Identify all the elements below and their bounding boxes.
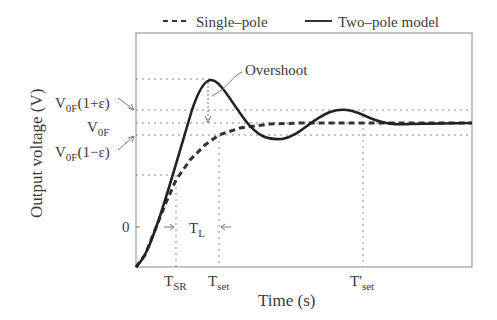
- overshoot-label: Overshoot: [245, 62, 308, 78]
- v0f-upper-label: V0F(1+ε): [55, 95, 110, 114]
- x-tick-tsr: TSR: [164, 273, 187, 292]
- overshoot-annotation: Overshoot: [205, 62, 308, 123]
- y-axis-label: Output voltage (V): [27, 89, 46, 218]
- y-tick-zero: 0: [122, 219, 130, 235]
- x-tick-tset-prime: T'set: [350, 273, 374, 292]
- legend-single-pole-label: Single–pole: [196, 14, 268, 30]
- v0f-label: V0F: [87, 119, 109, 138]
- y-annotations: V0F(1+ε) V0F V0F(1−ε) 0: [55, 95, 140, 235]
- x-tick-tset: Tset: [208, 273, 229, 292]
- single-pole-curve: [136, 123, 472, 267]
- x-axis-label: Time (s): [258, 291, 315, 310]
- tl-annotation: TL: [164, 220, 231, 239]
- legend: Single–pole Two–pole model: [163, 14, 439, 30]
- step-response-chart: Single–pole Two–pole model Overshoot V0F…: [0, 0, 497, 320]
- two-pole-curve: [136, 80, 472, 267]
- x-ticks: TSR Tset T'set: [164, 273, 374, 292]
- tl-label: TL: [189, 220, 205, 239]
- legend-two-pole-label: Two–pole model: [338, 14, 439, 30]
- reference-lines: [136, 79, 472, 267]
- v0f-lower-label: V0F(1−ε): [55, 144, 110, 163]
